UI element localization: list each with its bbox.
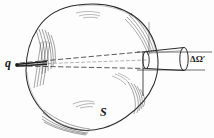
figure-canvas <box>0 0 214 138</box>
physics-figure: q S ΔΩ′ <box>0 0 214 138</box>
solid-angle-label: ΔΩ′ <box>190 55 205 64</box>
surface-label: S <box>100 106 107 118</box>
charge-label: q <box>5 57 11 69</box>
